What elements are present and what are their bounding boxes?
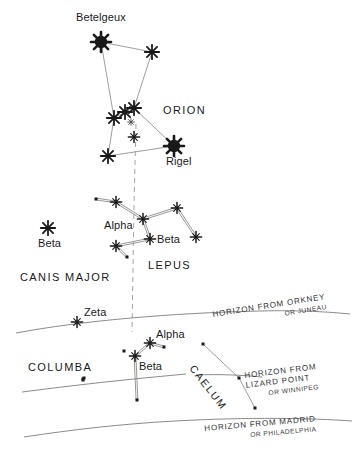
- label-columba: COLUMBA: [28, 362, 92, 374]
- star-col-s-dot: [136, 399, 139, 402]
- star-lepus-beta: [144, 233, 155, 244]
- star-cae-m: [238, 377, 241, 380]
- label-columba-zeta: Zeta: [84, 307, 106, 319]
- constellation-line: [136, 356, 138, 400]
- star-orion-belt-e: [127, 101, 141, 115]
- constellation-line: [117, 245, 128, 256]
- constellation-line: [108, 146, 174, 156]
- star-cae-s: [254, 407, 257, 410]
- star-col-alpha: [144, 337, 155, 348]
- star-rigel: [164, 136, 184, 156]
- star-lepus-sw: [110, 240, 121, 251]
- star-orion-belt-w: [107, 111, 121, 125]
- label-canis-major: CANIS MAJOR: [20, 272, 111, 284]
- label-orion: ORION: [163, 105, 206, 117]
- star-orion-sword: [128, 131, 139, 142]
- star-betelgeux: [91, 32, 111, 52]
- star-orion-saiph: [101, 149, 115, 163]
- label-rigel: Rigel: [166, 156, 192, 168]
- star-cae-n: [202, 343, 205, 346]
- label-lepus-alpha: Alpha: [104, 220, 133, 232]
- label-lepus: LEPUS: [148, 260, 191, 272]
- constellation-line: [101, 42, 152, 52]
- label-lepus-beta: Beta: [157, 234, 180, 246]
- constellation-line: [143, 207, 177, 218]
- star-lepus-sw-dot: [126, 256, 129, 259]
- star-cma-beta: [41, 221, 55, 235]
- horizon-line-lizard-point-left: [22, 374, 186, 392]
- star-col-mid-dot: [123, 350, 126, 353]
- star-orion-bellatrix: [145, 45, 159, 59]
- label-columba-beta: Beta: [139, 361, 162, 373]
- star-layer: [41, 32, 257, 410]
- label-betelgeux: Betelgeux: [76, 12, 126, 24]
- constellation-line: [134, 342, 149, 355]
- constellation-line: [134, 356, 136, 400]
- star-chart: Betelgeux ORION Rigel Alpha Beta LEPUS B…: [0, 0, 356, 465]
- star-col-zeta: [71, 316, 82, 327]
- star-col-e-dot: [163, 346, 166, 349]
- star-lepus-nw-dot: [95, 198, 98, 201]
- constellation-line: [203, 344, 239, 378]
- constellation-line: [178, 208, 197, 237]
- label-canis-major-beta: Beta: [38, 238, 61, 250]
- star-orion-nebula: [128, 119, 135, 126]
- constellation-line: [101, 42, 114, 118]
- constellation-line: [115, 247, 126, 258]
- star-col-top-dot: [82, 379, 85, 382]
- constellation-line: [136, 344, 151, 357]
- constellation-line: [134, 52, 152, 108]
- label-columba-alpha: Alpha: [156, 329, 185, 341]
- constellation-line: [143, 209, 177, 220]
